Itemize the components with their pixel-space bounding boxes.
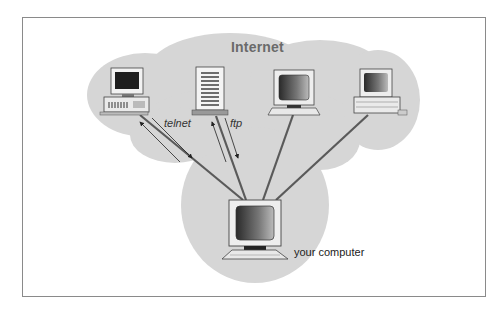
telnet-label: telnet [164, 117, 191, 129]
monitor-computer-icon [268, 70, 320, 115]
ftp-label: ftp [230, 117, 242, 129]
your-computer-label: your computer [294, 246, 364, 258]
internet-title: Internet [231, 39, 284, 55]
server-icon [192, 67, 228, 115]
